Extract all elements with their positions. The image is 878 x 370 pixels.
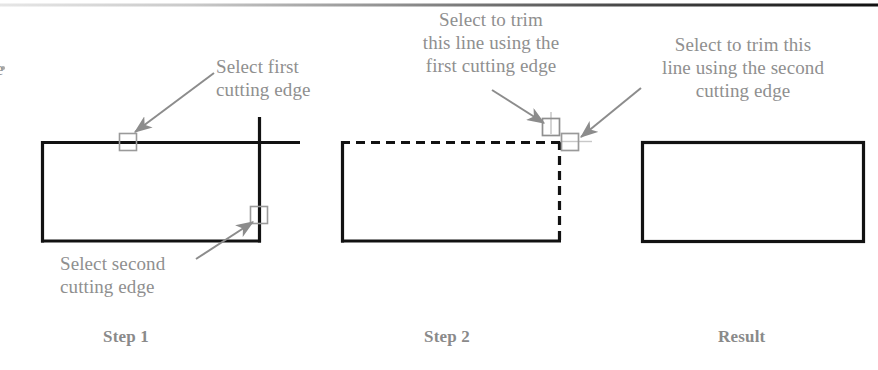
annotation-select-to-trim-second: Select to trim this line using the secon… [637,33,849,102]
header-rule [0,4,878,7]
arrow-to-first-cutting-edge [135,73,214,132]
step2-geometry [341,112,592,243]
arrow-to-trim-first [492,90,544,123]
clipped-edge-glyph: e [0,58,3,80]
caption-step-1: Step 1 [103,327,149,347]
step1-geometry [41,117,300,243]
caption-step-2: Step 2 [424,327,470,347]
result-rectangle [643,143,864,242]
arrow-to-trim-second [581,88,641,137]
annotation-arrows [135,73,641,259]
result-geometry [643,143,864,242]
annotation-select-first-cutting-edge: Select first cutting edge [216,55,311,101]
annotation-select-second-cutting-edge: Select second cutting edge [60,252,165,298]
caption-result: Result [718,327,765,347]
annotation-select-to-trim-first: Select to trim this line using the first… [391,8,591,77]
figure-canvas: Select first cutting edge Select second … [0,0,878,370]
